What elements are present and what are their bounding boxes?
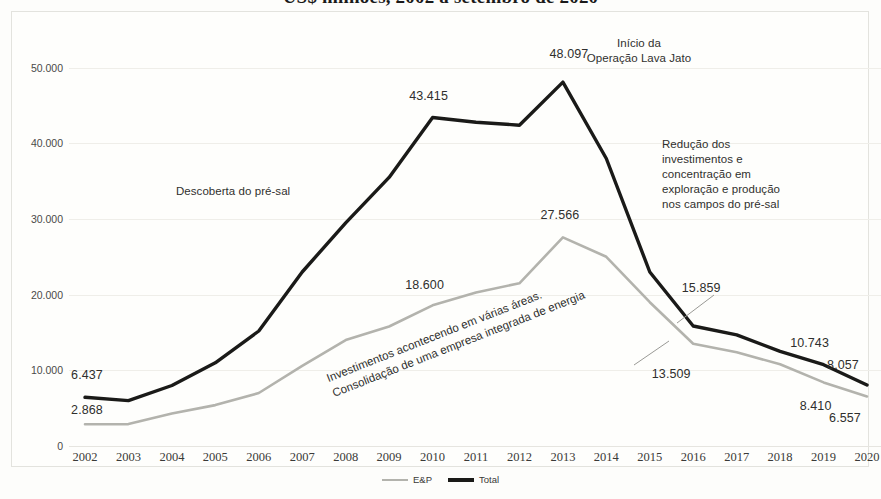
y-axis-tick-label: 50.000	[11, 62, 63, 74]
x-axis-tick-label: 2003	[105, 450, 151, 465]
chart-root: US$ milhões, 2002 a setembro de 2020 50.…	[0, 0, 881, 499]
y-axis-tick-label: 30.000	[11, 213, 63, 225]
x-axis-tick-label: 2020	[844, 450, 881, 465]
x-axis-tick-label: 2011	[453, 450, 499, 465]
data-label-ep-2002: 2.868	[71, 403, 103, 417]
data-label-total-2002: 6.437	[71, 368, 103, 382]
x-axis-tick-label: 2018	[757, 450, 803, 465]
x-axis-tick-label: 2012	[496, 450, 542, 465]
data-label-total-2010: 43.415	[409, 89, 448, 103]
data-label-ep-2016: 13.509	[652, 367, 691, 381]
x-axis-tick-label: 2009	[366, 450, 412, 465]
x-axis-tick-label: 2019	[801, 450, 847, 465]
chart-title: US$ milhões, 2002 a setembro de 2020	[0, 0, 881, 8]
series-lines	[69, 45, 881, 446]
legend-label-ep: E&P	[413, 474, 432, 485]
x-axis-tick-label: 2010	[410, 450, 456, 465]
data-label-total-2020: 8.057	[827, 358, 859, 372]
x-axis-tick-label: 2002	[62, 450, 108, 465]
chart-legend: E&P Total	[0, 474, 881, 485]
data-label-ep-2019: 8.410	[800, 399, 832, 413]
data-label-total-2019: 10.743	[790, 336, 829, 350]
x-axis-tick-label: 2004	[149, 450, 195, 465]
y-axis-tick-label: 10.000	[11, 364, 63, 376]
plot-frame: 50.00040.00030.00020.00010.0000 20022003…	[11, 11, 869, 467]
x-axis-tick-label: 2013	[540, 450, 586, 465]
legend-item-ep[interactable]: E&P	[382, 474, 432, 485]
x-axis-tick-label: 2007	[279, 450, 325, 465]
gridline	[69, 446, 881, 447]
legend-label-total: Total	[479, 474, 499, 485]
legend-swatch-total-icon	[448, 478, 474, 482]
series-line-total	[85, 82, 867, 401]
data-label-ep-2010: 18.600	[405, 278, 444, 292]
x-axis-tick-label: 2015	[627, 450, 673, 465]
x-axis-tick-label: 2006	[236, 450, 282, 465]
plot-area: 50.00040.00030.00020.00010.0000 20022003…	[69, 45, 881, 446]
legend-swatch-ep-icon	[382, 479, 408, 481]
y-axis-tick-label: 0	[11, 440, 63, 452]
y-axis-tick-label: 40.000	[11, 137, 63, 149]
data-label-total-2016: 15.859	[682, 281, 721, 295]
annotation-inicio-lava-jato: Início da Operação Lava Jato	[544, 36, 734, 66]
x-axis-tick-label: 2014	[583, 450, 629, 465]
x-axis-tick-label: 2017	[714, 450, 760, 465]
x-axis-tick-label: 2008	[323, 450, 369, 465]
y-axis-tick-label: 20.000	[11, 289, 63, 301]
x-axis-tick-label: 2016	[670, 450, 716, 465]
data-label-ep-2013: 27.566	[540, 208, 579, 222]
data-label-ep-2020: 6.557	[829, 411, 861, 425]
annotation-descoberta-pre-sal: Descoberta do pré-sal	[176, 184, 290, 199]
annotation-reducao-investimentos: Redução dos investimentos e concentração…	[662, 137, 780, 212]
x-axis-tick-label: 2005	[192, 450, 238, 465]
legend-item-total[interactable]: Total	[448, 474, 499, 485]
